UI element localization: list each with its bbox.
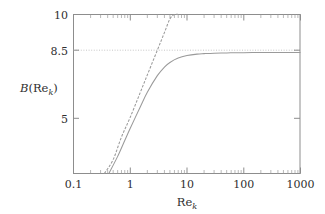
x-ticklabel-10: 10 — [180, 178, 194, 191]
y-axis-title-italic: B — [19, 81, 28, 95]
x-axis-title: Rek — [177, 195, 197, 211]
y-axis-title-open: (Re — [28, 81, 48, 95]
chart-figure: 10 8.5 5 0.1 1 10 100 1000 Rek B(Rek) — [0, 0, 325, 214]
svg-text:Rek: Rek — [177, 195, 197, 211]
y-ticklabel-8-5: 8.5 — [51, 45, 69, 58]
plot-axes — [73, 14, 301, 174]
x-ticklabel-0-1: 0.1 — [65, 178, 83, 191]
x-ticklabel-100: 100 — [233, 178, 254, 191]
y-tick-labels: 10 8.5 5 — [51, 9, 69, 126]
x-tick-labels: 0.1 1 10 100 1000 — [65, 178, 315, 191]
x-ticklabel-1: 1 — [127, 178, 134, 191]
chart-svg: 10 8.5 5 0.1 1 10 100 1000 Rek B(Rek) — [0, 0, 325, 214]
x-ticklabel-1000: 1000 — [287, 178, 315, 191]
x-axis-minor-ticks — [91, 15, 298, 174]
x-axis-title-subscript: k — [192, 202, 197, 211]
series-b-function-curve — [109, 52, 301, 173]
series-log-law-asymptote — [104, 14, 178, 173]
y-axis-title-close: ) — [53, 81, 58, 95]
x-axis-title-base: Re — [177, 195, 193, 209]
y-ticklabel-5: 5 — [61, 113, 68, 126]
svg-text:B(Rek): B(Rek) — [19, 81, 58, 97]
y-ticklabel-10: 10 — [54, 9, 68, 22]
data-series-group — [104, 14, 300, 173]
y-axis-ticks — [73, 15, 300, 119]
x-axis-major-ticks — [74, 15, 301, 174]
y-axis-title: B(Rek) — [19, 81, 58, 97]
